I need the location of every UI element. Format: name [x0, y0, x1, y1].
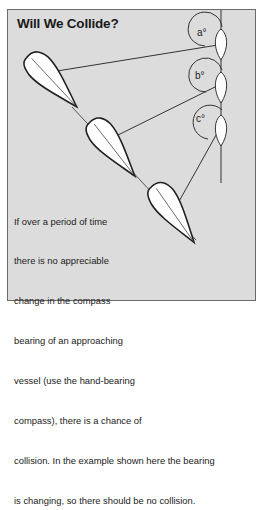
own-vessel-position-b: [215, 72, 226, 103]
approaching-vessel-position-1: [19, 46, 86, 115]
bearing-label-c: c°: [196, 113, 205, 124]
caption-line: If over a period of time: [14, 215, 254, 228]
bearing-label-b: b°: [195, 70, 205, 81]
bearing-label-a: a°: [197, 27, 207, 38]
caption-line: change in the compass: [14, 294, 254, 307]
caption-line: is changing, so there should be no colli…: [14, 494, 254, 507]
caption-line: vessel (use the hand-bearing: [14, 374, 254, 387]
bearing-line-a: [57, 45, 218, 71]
own-vessel-position-a: [215, 29, 226, 60]
caption-line: bearing of an approaching: [14, 334, 254, 347]
approaching-vessel-position-2: [81, 113, 145, 185]
caption: If over a period of time there is no app…: [14, 188, 254, 510]
caption-line: collision. In the example shown here the…: [14, 454, 254, 467]
bearing-line-b: [118, 85, 219, 135]
caption-line: there is no appreciable: [14, 254, 254, 267]
own-vessel-position-c: [215, 115, 226, 146]
caption-line: compass), there is a chance of: [14, 414, 254, 427]
